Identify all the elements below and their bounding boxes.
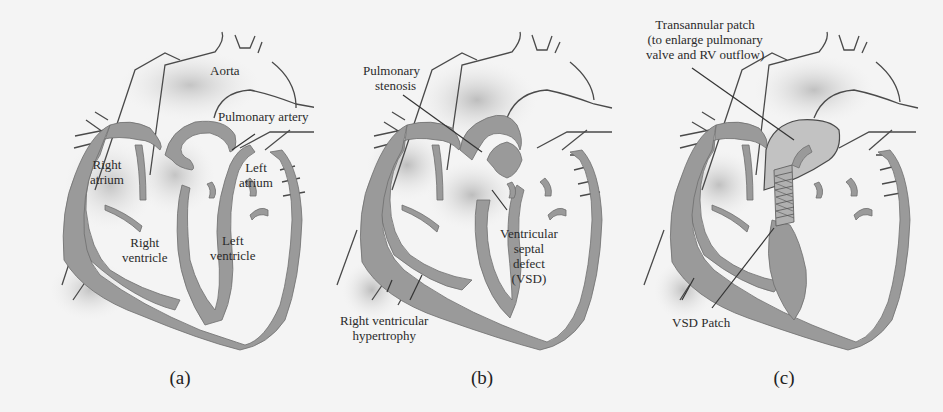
- normal-heart-illustration: [0, 0, 314, 412]
- label-right-ventricle: Right ventricle: [122, 235, 167, 265]
- label-right-atrium: Right atrium: [90, 157, 124, 187]
- tetralogy-heart-illustration: [312, 0, 626, 412]
- label-vsd-patch: VSD Patch: [672, 315, 730, 330]
- tetralogy-of-fallot-figure: Aorta Pulmonary artery Right atrium Left…: [0, 0, 943, 412]
- label-right-ventricular-hypertrophy: Right ventricular hypertrophy: [340, 313, 428, 343]
- panel-b-tetralogy: Pulmonary stenosis Ventricular septal de…: [312, 0, 626, 412]
- caption-b: (b): [452, 367, 512, 389]
- label-transannular-patch: Transannular patch (to enlarge pulmonary…: [646, 17, 764, 62]
- caption-a: (a): [150, 367, 210, 389]
- vsd-patch-graphic: [774, 165, 794, 226]
- label-ventricular-septal-defect: Ventricular septal defect (VSD): [500, 226, 558, 286]
- label-aorta: Aorta: [210, 63, 240, 78]
- panel-a-normal-heart: Aorta Pulmonary artery Right atrium Left…: [0, 0, 314, 412]
- caption-c: (c): [754, 367, 814, 389]
- label-pulmonary-stenosis: Pulmonary stenosis: [363, 63, 420, 93]
- label-pulmonary-artery: Pulmonary artery: [218, 109, 309, 124]
- label-left-atrium: Left atrium: [239, 160, 273, 190]
- panel-c-surgical-repair: Transannular patch (to enlarge pulmonary…: [624, 0, 943, 412]
- label-left-ventricle: Left ventricle: [210, 233, 255, 263]
